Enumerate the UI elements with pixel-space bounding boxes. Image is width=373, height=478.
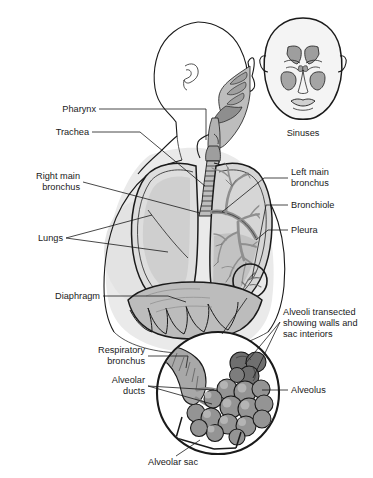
- label-sinuses: Sinuses: [287, 128, 320, 138]
- label-left-main-bronchus-line1: Left main: [291, 167, 329, 177]
- frontal-head: [260, 18, 346, 119]
- label-alveolus: Alveolus: [291, 385, 326, 395]
- label-respiratory-bronchus-line2: bronchus: [107, 356, 145, 366]
- head-crown: [198, 22, 247, 80]
- respiratory-system-figure: Pharynx Trachea Right main bronchus Lung…: [0, 0, 373, 478]
- larynx: [206, 146, 221, 161]
- ethmoid-sinus-right: [303, 66, 308, 72]
- ear: [184, 64, 198, 83]
- label-respiratory-bronchus-line1: Respiratory: [98, 345, 145, 355]
- label-alveolar-sac: Alveolar sac: [148, 457, 198, 467]
- label-diaphragm: Diaphragm: [55, 291, 100, 301]
- label-pharynx: Pharynx: [62, 104, 96, 114]
- upper-airway: [206, 66, 250, 163]
- label-right-main-bronchus-line1: Right main: [36, 171, 80, 181]
- label-alveolar-ducts-line1: Alveolar: [112, 375, 145, 385]
- label-trachea: Trachea: [56, 127, 90, 137]
- label-pleura: Pleura: [291, 225, 318, 235]
- label-right-main-bronchus-line2: bronchus: [42, 182, 80, 192]
- respiratory-diagram-canvas: Pharynx Trachea Right main bronchus Lung…: [0, 0, 373, 478]
- leader-pharynx: [99, 109, 206, 140]
- label-left-main-bronchus-line2: bronchus: [291, 178, 329, 188]
- label-alveoli-transected-line3: sac interiors: [283, 329, 333, 339]
- label-alveolar-ducts-line2: ducts: [123, 386, 145, 396]
- ear-lobe: [184, 80, 187, 90]
- label-alveoli-transected-line2: showing walls and: [283, 318, 358, 328]
- label-lungs: Lungs: [38, 233, 63, 243]
- label-bronchiole: Bronchiole: [291, 200, 334, 210]
- label-alveoli-transected-line1: Alveoli transected: [283, 307, 356, 317]
